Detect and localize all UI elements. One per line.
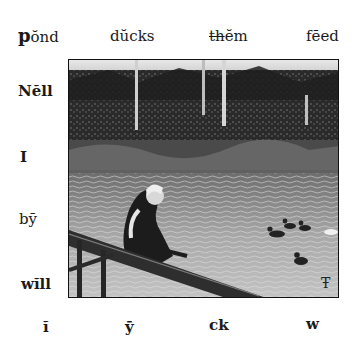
letter-short-i: ĭ <box>43 318 49 336</box>
word-i: I <box>20 148 27 166</box>
letter-ck: ck <box>209 316 229 334</box>
word-them-digraph: th <box>209 27 225 45</box>
word-feed: fēed <box>306 27 339 45</box>
word-pond: pŏnd <box>18 27 59 46</box>
letter-w: w <box>306 315 319 333</box>
word-them: thĕm <box>209 27 248 45</box>
pond-scene-image: Ŧ <box>69 60 339 298</box>
word-ducks: dŭcks <box>110 27 154 45</box>
word-will: wĭll <box>21 275 51 293</box>
word-pond-rest: ŏnd <box>31 28 59 46</box>
word-them-rest: ĕm <box>225 27 248 45</box>
word-by: bȳ <box>19 210 37 228</box>
letter-long-y: ȳ <box>125 318 134 336</box>
artist-monogram: Ŧ <box>321 275 331 291</box>
pond-illustration: Ŧ <box>68 59 339 298</box>
word-nell: Nĕll <box>18 82 53 100</box>
word-pond-initial: p <box>18 25 31 46</box>
cutoff-header-text: — — — — <box>142 0 222 2</box>
